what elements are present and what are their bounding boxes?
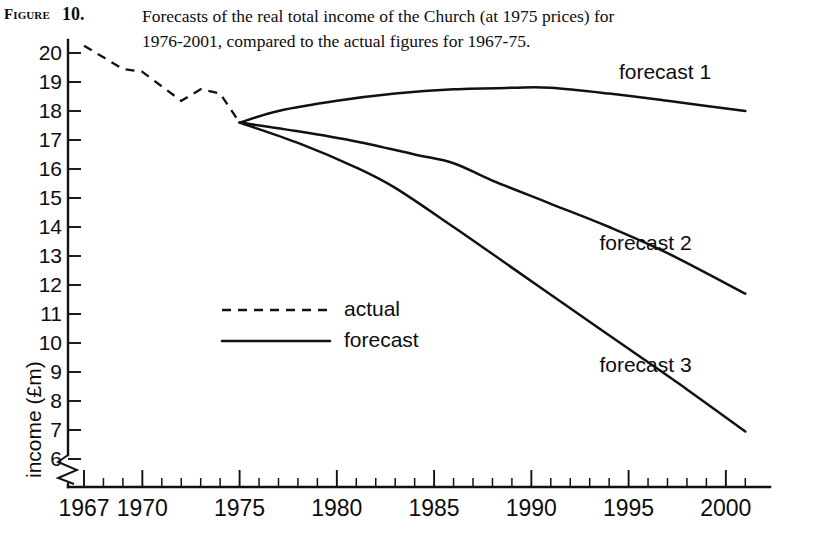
y-tick-label: 20 bbox=[18, 42, 62, 63]
series-annotation: forecast 1 bbox=[619, 60, 711, 84]
series-line-forecast-1 bbox=[240, 87, 746, 122]
series-line-actual bbox=[84, 46, 240, 123]
x-tick-label: 1995 bbox=[583, 495, 675, 522]
axis-lines bbox=[58, 40, 770, 487]
x-tick-label: 1970 bbox=[96, 495, 188, 522]
y-axis-title: income (£m) bbox=[22, 361, 46, 478]
y-tick-label: 11 bbox=[18, 303, 62, 324]
legend-label-forecast: forecast bbox=[344, 328, 419, 352]
y-axis-ticks bbox=[68, 53, 81, 459]
y-tick-label: 18 bbox=[18, 100, 62, 121]
series-annotation: forecast 2 bbox=[599, 231, 691, 255]
series-line-forecast-3 bbox=[240, 123, 746, 432]
x-tick-label: 1975 bbox=[194, 495, 286, 522]
legend-label-actual: actual bbox=[344, 297, 400, 321]
x-tick-label: 2000 bbox=[680, 495, 772, 522]
y-tick-label: 12 bbox=[18, 274, 62, 295]
y-tick-label: 14 bbox=[18, 216, 62, 237]
y-tick-label: 13 bbox=[18, 245, 62, 266]
y-tick-label: 15 bbox=[18, 187, 62, 208]
series-line-forecast-2 bbox=[240, 123, 746, 294]
x-tick-label: 1990 bbox=[485, 495, 577, 522]
legend-marks bbox=[222, 310, 330, 341]
y-tick-label: 19 bbox=[18, 71, 62, 92]
x-tick-label: 1985 bbox=[388, 495, 480, 522]
y-tick-label: 10 bbox=[18, 332, 62, 353]
x-tick-label: 1980 bbox=[291, 495, 383, 522]
series-annotation: forecast 3 bbox=[599, 353, 691, 377]
y-tick-label: 17 bbox=[18, 129, 62, 150]
y-tick-label: 16 bbox=[18, 158, 62, 179]
x-axis-ticks bbox=[84, 470, 745, 487]
figure-root: Figure 10. Forecasts of the real total i… bbox=[0, 0, 813, 547]
